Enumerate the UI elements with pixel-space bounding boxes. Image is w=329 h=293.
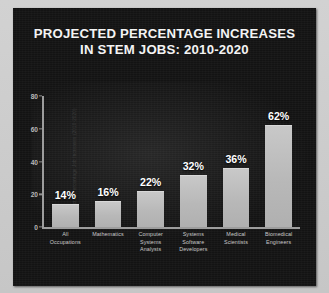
chart-panel: PROJECTED PERCENTAGE INCREASES IN STEM J… [13,8,316,286]
bar-group: 14%AllOccupations [44,96,87,227]
bar-value-label: 62% [268,110,289,122]
category-label-line: Computer [138,231,162,237]
bar[interactable] [223,168,249,227]
bar[interactable] [95,201,121,227]
y-axis-tick-label: 80 [31,93,38,100]
y-axis-tick-label: 20 [31,191,38,198]
category-label-line: Medical [226,231,245,237]
y-axis-tick-mark [39,161,42,162]
bar[interactable] [180,175,206,227]
bar-group: 16%Mathematics [87,96,130,227]
category-label-line: Scientists [224,239,248,245]
category-label-line: Mathematics [92,231,124,237]
x-axis-line [42,227,300,229]
y-axis-tick-mark [39,128,42,129]
category-label-line: Analysts [140,246,161,252]
bar[interactable] [265,125,291,227]
y-axis-tick-mark [39,226,42,227]
category-label-line: Systems [183,231,204,237]
category-label-line: Systems [140,239,161,245]
bar-group: 22%ComputerSystemsAnalysts [129,96,172,227]
y-axis-tick-label: 40 [31,158,38,165]
category-label-line: Software [182,239,204,245]
y-axis-tick-label: 0 [34,224,38,231]
y-axis-tick-label: 60 [31,125,38,132]
category-label-line: Developers [179,246,207,252]
bar-series: 14%AllOccupations16%Mathematics22%Comput… [44,96,300,227]
x-axis-category-label: BiomedicalEngineers [251,231,306,246]
bar-group: 62%BiomedicalEngineers [257,96,300,227]
bar[interactable] [137,191,163,227]
category-label-line: Occupations [50,239,81,245]
bar-value-label: 36% [225,153,246,165]
bar-group: 32%SystemsSoftwareDevelopers [172,96,215,227]
plot-area: 020406080 Projected Percentage Job Incre… [42,96,300,227]
chart-title-line-2: IN STEM JOBS: 2010-2020 [13,42,316,58]
chart-figure: PROJECTED PERCENTAGE INCREASES IN STEM J… [0,0,329,293]
bar-value-label: 14% [55,189,76,201]
category-label-line: All [62,231,68,237]
category-label-line: Engineers [266,239,291,245]
bar-value-label: 16% [97,186,118,198]
chart-title: PROJECTED PERCENTAGE INCREASES IN STEM J… [13,26,316,58]
y-axis-tick-mark [39,194,42,195]
bar-value-label: 22% [140,176,161,188]
bar[interactable] [52,204,78,227]
bar-value-label: 32% [183,160,204,172]
chart-title-line-1: PROJECTED PERCENTAGE INCREASES [34,26,296,41]
category-label-line: Biomedical [265,231,292,237]
y-axis-tick-mark [39,95,42,96]
bar-group: 36%MedicalScientists [215,96,258,227]
